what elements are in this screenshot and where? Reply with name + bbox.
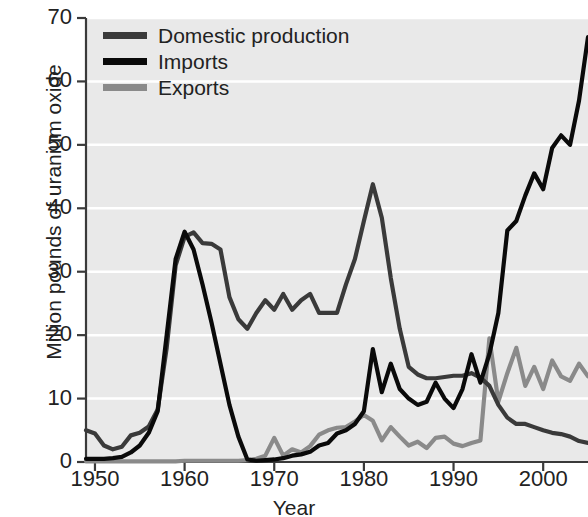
uranium-oxide-line-chart: Million pounds of uranium oxide Year 010… — [0, 0, 588, 517]
y-tick-label: 70 — [20, 6, 72, 28]
x-tick-label: 1990 — [414, 468, 494, 490]
y-axis-tick-labels: 010203040506070 — [10, 0, 72, 517]
legend-swatch-icon — [103, 32, 147, 39]
y-tick-label: 10 — [20, 387, 72, 409]
legend-swatch-icon — [103, 58, 147, 65]
y-tick-label: 30 — [20, 260, 72, 282]
legend-label: Imports — [158, 51, 228, 72]
legend-swatch-icon — [103, 84, 147, 91]
legend-item: Imports — [103, 48, 349, 74]
legend-label: Domestic production — [158, 25, 349, 46]
y-tick-label: 20 — [20, 323, 72, 345]
x-axis-title: Year — [0, 496, 588, 517]
x-tick-label: 1980 — [324, 468, 404, 490]
x-tick-label: 1970 — [234, 468, 314, 490]
legend-item: Domestic production — [103, 22, 349, 48]
y-tick-label: 50 — [20, 133, 72, 155]
legend-item: Exports — [103, 74, 349, 100]
x-tick-label: 1960 — [145, 468, 225, 490]
y-tick-label: 40 — [20, 196, 72, 218]
y-tick-label: 60 — [20, 69, 72, 91]
chart-legend: Domestic productionImportsExports — [103, 22, 349, 100]
x-tick-label: 2000 — [503, 468, 583, 490]
legend-label: Exports — [158, 77, 229, 98]
x-tick-label: 1950 — [55, 468, 135, 490]
